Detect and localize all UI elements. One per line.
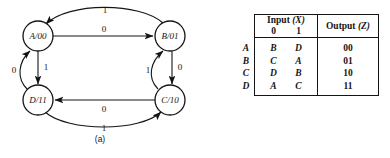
row-label-A: A xyxy=(238,42,254,55)
edge-C-to-B xyxy=(151,51,163,89)
next-state-row-B: C A xyxy=(255,55,317,68)
table-header-row: Input (X) 0 1 Output (Z) xyxy=(238,15,379,38)
table-body-row: A B C D B D C A xyxy=(238,38,379,96)
edge-label-A-to-B: 0 xyxy=(102,24,107,34)
edge-label-C-to-B: 1 xyxy=(146,65,151,75)
next-pad-bot xyxy=(255,92,317,95)
state-node-B[interactable]: B/01 xyxy=(155,21,185,51)
next-state-A-on-0: B xyxy=(265,42,283,55)
header-input-bits: 0 1 xyxy=(255,26,317,37)
header-output-var: (Z) xyxy=(358,21,370,31)
edge-D-to-A xyxy=(20,51,30,90)
output-row-B: 01 xyxy=(318,55,378,68)
state-table: Input (X) 0 1 Output (Z) xyxy=(238,14,379,96)
output-row-C: 10 xyxy=(318,67,378,80)
header-input-title-line: Input (X) xyxy=(255,15,317,26)
header-output-cell: Output (Z) xyxy=(318,15,379,38)
next-state-column: B D C A D B A C xyxy=(255,38,318,96)
next-state-D-on-0: A xyxy=(265,80,283,93)
rowlabel-pad-bot xyxy=(238,92,254,95)
state-node-D-label: D/11 xyxy=(28,95,46,105)
next-state-row-C: D B xyxy=(255,67,317,80)
header-rowlabel-spacer xyxy=(238,15,255,38)
header-output-title-line: Output (Z) xyxy=(318,21,378,32)
header-input-cell: Input (X) 0 1 xyxy=(255,15,318,38)
row-label-C: C xyxy=(238,67,254,80)
state-node-C-label: C/10 xyxy=(161,95,179,105)
edge-label-B-to-C: 0 xyxy=(178,62,183,72)
next-state-B-on-0: C xyxy=(265,55,283,68)
panel-a-caption: (a) xyxy=(60,134,140,144)
panel-b-state-table: Input (X) 0 1 Output (Z) xyxy=(205,0,390,158)
next-state-C-on-0: D xyxy=(265,67,283,80)
edge-label-B-to-A: 1 xyxy=(103,5,108,15)
output-row-A: 00 xyxy=(318,42,378,55)
row-label-D: D xyxy=(238,80,254,93)
out-pad-bot xyxy=(318,92,378,95)
edge-label-D-to-A: 0 xyxy=(12,65,17,75)
next-state-row-A: B D xyxy=(255,42,317,55)
panel-a-state-diagram: A/00 B/01 C/10 D/11 1 0 0 1 0 1 1 0 xyxy=(0,0,205,158)
edge-label-D-to-C: 1 xyxy=(102,123,107,133)
next-state-B-on-1: A xyxy=(290,55,308,68)
state-node-A-label: A/00 xyxy=(29,31,47,41)
state-transition-diagram: A/00 B/01 C/10 D/11 1 0 0 1 0 1 1 0 xyxy=(0,0,205,135)
figure-root: A/00 B/01 C/10 D/11 1 0 0 1 0 1 1 0 xyxy=(0,0,390,158)
row-label-column: A B C D xyxy=(238,38,255,96)
edge-label-C-to-D: 0 xyxy=(102,104,107,114)
state-table-wrap: Input (X) 0 1 Output (Z) xyxy=(238,14,379,96)
header-input-var: (X) xyxy=(292,15,305,25)
header-output-title: Output xyxy=(326,21,356,31)
header-input-title: Input xyxy=(267,15,290,25)
next-state-row-D: A C xyxy=(255,80,317,93)
edge-label-A-to-D: 1 xyxy=(44,62,49,72)
state-node-C[interactable]: C/10 xyxy=(155,85,185,115)
state-node-D[interactable]: D/11 xyxy=(23,85,53,115)
output-row-D: 11 xyxy=(318,80,378,93)
header-input-bit-0: 0 xyxy=(271,26,276,37)
next-state-A-on-1: D xyxy=(290,42,308,55)
row-label-B: B xyxy=(238,55,254,68)
state-node-B-label: B/01 xyxy=(162,31,179,41)
next-state-C-on-1: B xyxy=(290,67,308,80)
output-column: 00 01 10 11 xyxy=(318,38,379,96)
state-node-A[interactable]: A/00 xyxy=(23,21,53,51)
next-state-D-on-1: C xyxy=(290,80,308,93)
header-input-bit-1: 1 xyxy=(296,26,301,37)
